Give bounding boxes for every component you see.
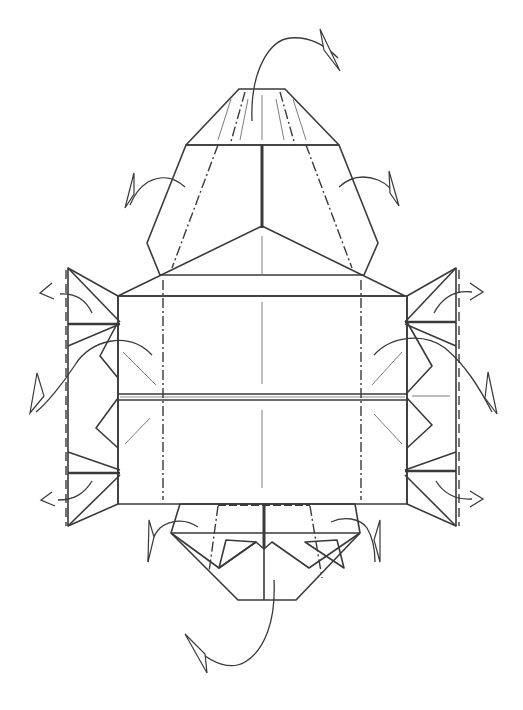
lower-hood [171,504,360,600]
upper-left-arrow-icon [125,173,185,208]
origami-diagram [0,0,523,710]
right-side-flaps [405,268,459,526]
left-side-flaps [66,268,120,526]
right-mid-arrow-icon [374,338,497,414]
left-mid-arrow-icon [30,341,152,413]
top-cap [186,89,339,145]
central-body [118,280,407,504]
upper-triangle-panel [118,226,405,296]
upper-right-arrow-icon [339,171,399,206]
upper-hood [147,145,378,275]
bottom-arrow-icon [185,580,274,673]
